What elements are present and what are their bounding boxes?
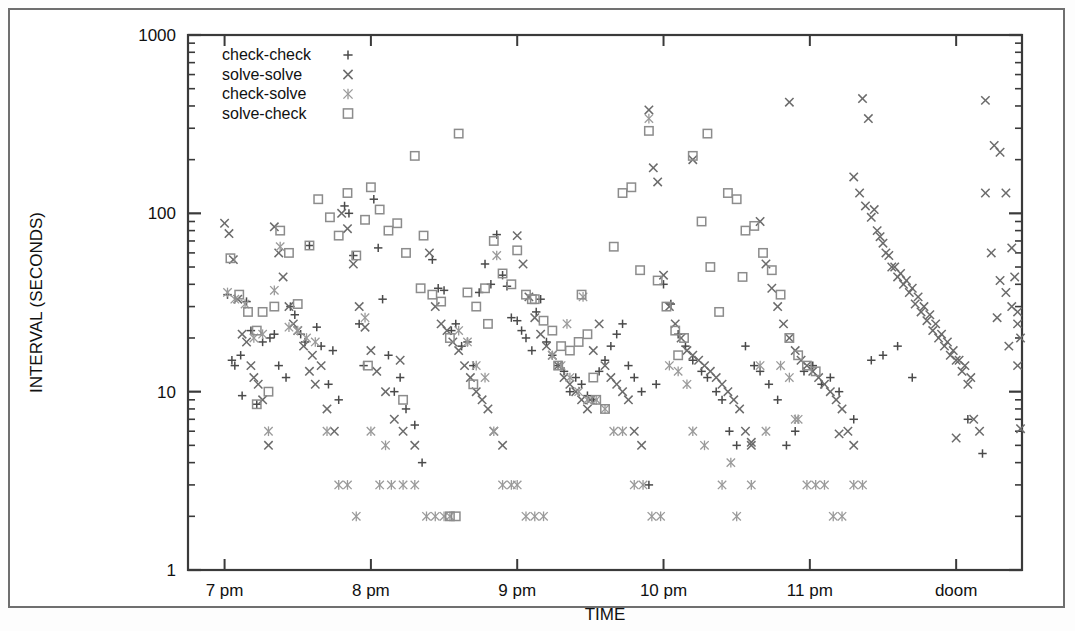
data-point — [411, 441, 419, 449]
data-point — [313, 323, 321, 331]
data-point — [367, 426, 375, 436]
data-point — [563, 319, 571, 329]
data-point — [610, 242, 618, 250]
data-point — [637, 387, 645, 395]
data-point — [507, 280, 515, 288]
data-point — [636, 266, 644, 274]
data-point — [624, 396, 632, 404]
x-tick-label: 8 pm — [352, 581, 390, 600]
y-tick-label: 100 — [148, 204, 176, 223]
data-point — [428, 290, 436, 298]
data-point — [285, 322, 293, 332]
data-point — [703, 129, 711, 137]
data-point — [741, 342, 749, 350]
data-point — [337, 209, 345, 217]
data-point — [539, 511, 547, 521]
data-point — [294, 300, 302, 308]
data-point — [308, 351, 316, 359]
data-point — [987, 249, 995, 257]
data-point — [785, 373, 793, 383]
y-axis-tick-labels: 1000100101 — [138, 26, 176, 580]
data-point — [531, 313, 539, 321]
data-point — [589, 373, 597, 381]
data-point — [276, 242, 284, 252]
data-point — [425, 249, 433, 257]
data-point — [349, 251, 357, 259]
data-point — [291, 311, 299, 319]
data-point — [943, 338, 951, 346]
data-point — [343, 480, 351, 490]
data-point — [402, 405, 410, 413]
page-root: 1000100101 7 pm8 pm9 pm10 pm11 pmdoom IN… — [0, 0, 1075, 631]
data-point — [940, 342, 948, 350]
data-point — [908, 284, 916, 292]
data-point — [525, 293, 533, 301]
data-point — [645, 114, 653, 124]
data-point — [718, 480, 726, 490]
data-point — [618, 189, 626, 197]
data-point — [419, 231, 427, 239]
data-point — [618, 387, 626, 395]
data-point — [618, 320, 626, 328]
data-point — [270, 330, 278, 338]
data-point — [858, 94, 866, 102]
data-point — [618, 426, 626, 436]
data-point — [373, 367, 381, 375]
data-point — [393, 219, 401, 227]
data-point — [279, 273, 287, 281]
data-point — [330, 427, 338, 435]
data-point — [630, 427, 638, 435]
data-point — [610, 426, 618, 436]
data-point — [381, 441, 389, 451]
data-point — [345, 209, 353, 217]
data-point — [803, 480, 811, 490]
data-point — [791, 427, 799, 435]
data-point — [630, 480, 638, 490]
data-point — [399, 480, 407, 490]
data-point — [446, 511, 454, 521]
data-point — [850, 415, 858, 423]
data-point — [454, 129, 462, 137]
x-tick-label: 10 pm — [640, 581, 687, 600]
data-point — [375, 480, 383, 490]
data-point — [902, 276, 910, 284]
data-point — [498, 441, 506, 449]
data-point — [481, 260, 489, 268]
data-point — [236, 351, 244, 359]
data-point — [343, 189, 351, 197]
data-point — [349, 260, 357, 268]
data-point — [896, 269, 904, 277]
x-tick-label: 11 pm — [787, 581, 833, 600]
data-point — [765, 380, 773, 388]
data-point — [566, 346, 574, 354]
data-point — [335, 231, 343, 239]
data-point — [402, 249, 410, 257]
data-point — [607, 342, 615, 350]
data-point — [311, 380, 319, 388]
data-point — [270, 302, 278, 310]
data-point — [399, 427, 407, 435]
data-point — [238, 330, 246, 338]
data-point — [323, 405, 331, 413]
data-point — [838, 405, 846, 413]
data-point — [700, 441, 708, 451]
data-point — [285, 249, 293, 257]
data-point — [779, 320, 787, 328]
data-point — [247, 361, 255, 369]
data-point — [1013, 361, 1021, 369]
data-point — [490, 426, 498, 436]
data-point — [645, 127, 653, 135]
data-point — [861, 202, 869, 210]
data-point — [422, 511, 430, 521]
data-point — [454, 326, 462, 336]
data-point — [773, 302, 781, 310]
data-point — [689, 426, 697, 436]
data-point — [282, 373, 290, 381]
data-point — [498, 480, 506, 490]
chart-legend: check-checksolve-solvecheck-solvesolve-c… — [222, 46, 353, 122]
data-point — [741, 427, 749, 435]
data-point — [583, 330, 591, 338]
data-point — [712, 387, 720, 395]
data-point — [589, 346, 597, 354]
data-point — [226, 254, 234, 262]
